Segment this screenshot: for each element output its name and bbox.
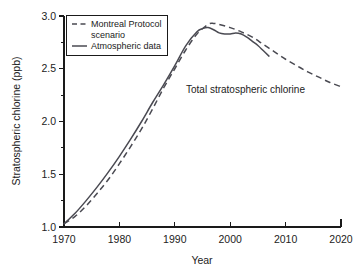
y-tick-label: 3.0 xyxy=(41,10,56,22)
y-axis-tick-labels: 1.01.52.02.53.0 xyxy=(41,10,56,233)
x-tick-label: 2020 xyxy=(329,233,353,245)
chart-legend: Montreal Protocol scenario Atmospheric d… xyxy=(67,16,168,56)
y-tick-label: 2.5 xyxy=(41,62,56,74)
chart-canvas: 1.01.52.02.53.0 197019801990200020102020… xyxy=(0,0,357,271)
y-tick-label: 1.0 xyxy=(41,221,56,233)
legend-label-atmospheric: Atmospheric data xyxy=(91,41,161,51)
chart-figure: 1.01.52.02.53.0 197019801990200020102020… xyxy=(0,0,357,271)
series-atmospheric-data xyxy=(64,28,269,224)
x-axis-title: Year xyxy=(191,254,213,266)
y-tick-label: 2.0 xyxy=(41,115,56,127)
x-tick-label: 2010 xyxy=(274,233,298,245)
legend-label-montreal-line2: scenario xyxy=(91,30,125,40)
x-tick-label: 1980 xyxy=(108,233,132,245)
legend-label-montreal-line1: Montreal Protocol xyxy=(91,19,162,29)
y-tick-label: 1.5 xyxy=(41,168,56,180)
x-tick-label: 2000 xyxy=(219,233,243,245)
x-axis-ticks xyxy=(64,222,341,227)
x-tick-label: 1990 xyxy=(163,233,187,245)
chart-annotation: Total stratospheric chlorine xyxy=(186,84,305,95)
x-axis-tick-labels: 197019801990200020102020 xyxy=(52,233,353,245)
y-axis-title: Stratospheric chlorine (ppb) xyxy=(10,57,22,186)
y-axis-ticks xyxy=(59,16,64,227)
x-tick-label: 1970 xyxy=(52,233,76,245)
